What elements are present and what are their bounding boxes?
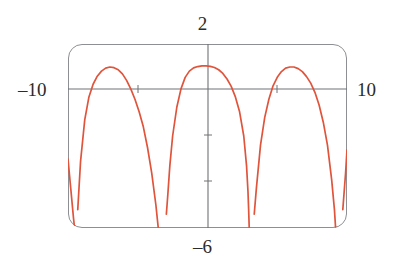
plot-canvas <box>68 44 347 228</box>
axis-label-x-max: 10 <box>357 80 376 99</box>
axis-label-y-min: –6 <box>0 237 405 256</box>
graph-screenshot: 2 –6 –10 10 <box>0 0 405 275</box>
axis-label-x-min: –10 <box>18 80 47 99</box>
axis-label-y-max: 2 <box>0 14 405 33</box>
axes-group <box>68 44 347 228</box>
